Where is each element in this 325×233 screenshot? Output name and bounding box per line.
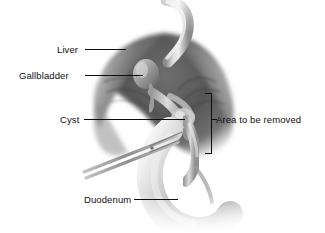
label-area-to-be-removed: Area to be removed [216, 114, 301, 125]
duodenum-leader-line [134, 199, 178, 200]
bottom-fade [0, 196, 325, 233]
label-cyst: Cyst [60, 114, 79, 125]
liver-leader-line [85, 49, 126, 50]
label-gallbladder: Gallbladder [19, 70, 69, 81]
cyst-leader-line [84, 119, 185, 120]
gallbladder-leader-line [85, 75, 143, 76]
label-liver: Liver [57, 44, 78, 55]
medical-illustration-figure: Liver Gallbladder Cyst Duodenum Area to … [0, 0, 325, 233]
area-to-be-removed-bracket [205, 93, 212, 154]
label-duodenum: Duodenum [84, 194, 131, 205]
